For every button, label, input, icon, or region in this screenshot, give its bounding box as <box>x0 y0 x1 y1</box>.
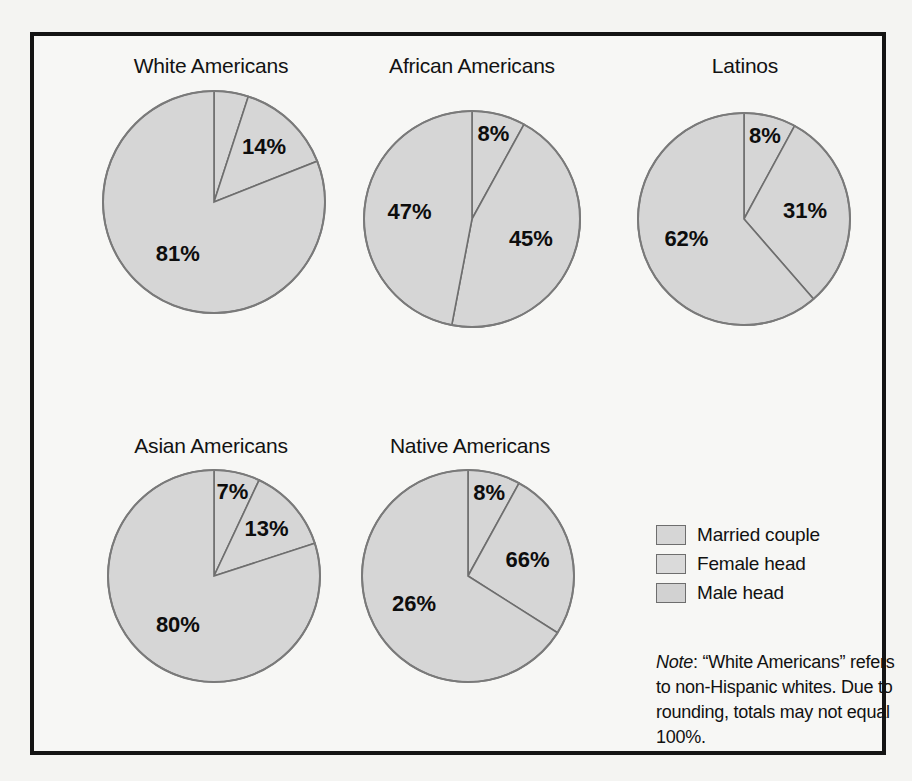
pie-svg-asian-americans: 7%13%80% <box>76 464 346 704</box>
legend-label-male-head: Male head <box>697 582 784 604</box>
pie-value-label: 14% <box>242 134 286 159</box>
pie-value-label: 26% <box>392 591 436 616</box>
pie-title-african-americans: African Americans <box>334 54 610 78</box>
pie-value-label: 47% <box>388 199 432 224</box>
pie-value-label: 31% <box>783 198 827 223</box>
legend-item-married-couple: Married couple <box>656 520 906 549</box>
pie-title-white-americans: White Americans <box>76 54 346 78</box>
pie-value-label: 8% <box>478 121 510 146</box>
pie-value-label: 45% <box>509 226 553 251</box>
note-lead-word: Note <box>656 652 693 672</box>
pie-svg-latinos: 8%31%62% <box>614 84 876 334</box>
pie-panel-asian-americans: Asian Americans 7%13%80% <box>76 434 346 694</box>
pie-chart-white-americans: 5%14%81% <box>76 84 346 324</box>
legend-label-female-head: Female head <box>697 553 806 575</box>
pie-svg-white-americans: 5%14%81% <box>76 84 346 324</box>
pie-value-label: 66% <box>505 547 549 572</box>
pie-svg-native-americans: 8%66%26% <box>330 464 610 704</box>
figure-frame: White Americans 5%14%81% African America… <box>30 32 886 755</box>
pie-chart-latinos: 8%31%62% <box>614 84 876 334</box>
pie-value-label: 62% <box>664 226 708 251</box>
pie-value-label: 81% <box>156 241 200 266</box>
legend-swatch-female-head <box>656 554 686 574</box>
pie-chart-asian-americans: 7%13%80% <box>76 464 346 704</box>
pie-title-asian-americans: Asian Americans <box>76 434 346 458</box>
note-separator: : <box>693 652 703 672</box>
pie-value-label: 8% <box>749 123 781 148</box>
pie-value-label: 8% <box>473 480 505 505</box>
pie-panel-white-americans: White Americans 5%14%81% <box>76 54 346 314</box>
pie-svg-african-americans: 8%45%47% <box>334 84 610 334</box>
pie-title-native-americans: Native Americans <box>330 434 610 458</box>
legend-item-male-head: Male head <box>656 578 906 607</box>
legend-item-female-head: Female head <box>656 549 906 578</box>
pie-chart-native-americans: 8%66%26% <box>330 464 610 704</box>
pie-panel-latinos: Latinos 8%31%62% <box>614 54 876 344</box>
pie-value-label: 13% <box>244 516 288 541</box>
pie-value-label: 80% <box>156 612 200 637</box>
figure-note: Note: “White Americans” refers to non-Hi… <box>656 650 910 750</box>
legend-label-married-couple: Married couple <box>697 524 820 546</box>
pie-value-label: 7% <box>217 479 249 504</box>
pie-chart-african-americans: 8%45%47% <box>334 84 610 334</box>
pie-panel-african-americans: African Americans 8%45%47% <box>334 54 610 344</box>
legend-swatch-married-couple <box>656 525 686 545</box>
legend: Married couple Female head Male head <box>656 520 906 607</box>
legend-swatch-male-head <box>656 583 686 603</box>
pie-panel-native-americans: Native Americans 8%66%26% <box>330 434 610 694</box>
page-background: White Americans 5%14%81% African America… <box>0 0 912 781</box>
pie-title-latinos: Latinos <box>614 54 876 78</box>
